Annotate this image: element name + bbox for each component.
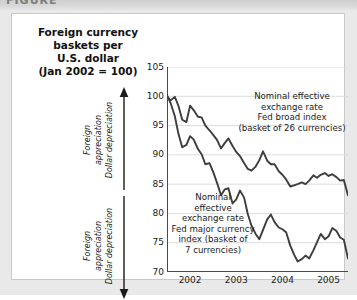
axis-note-appreciation-down: Foreign appreciation Dollar depreciation [82,192,134,300]
y-axis-tick-label: 105 [142,63,164,72]
axis-note-up-line-3: Dollar depreciation [104,86,115,194]
x-axis-tick-label: 2003 [225,275,248,285]
series-annotation-broad-line-1: Nominal effective [231,91,353,102]
chart-title-line-3: U.S. dollar [20,52,156,65]
axis-note-down-text: Foreign appreciation Dollar depreciation [82,192,116,300]
y-axis-tick-label: 95 [142,121,164,130]
y-axis-tick-label: 100 [142,92,164,101]
axis-note-up-line-2: appreciation [93,86,104,194]
series-annotation-major-index: Nominal effective exchange rate Fed majo… [152,192,274,255]
x-axis-tick-label: 2005 [317,275,340,285]
series-annotation-major-line-3: exchange rate [152,213,274,224]
series-annotation-major-line-6: 7 currencies) [152,245,274,256]
chart-title-line-1: Foreign currency [20,26,156,39]
chart-title-line-4: (Jan 2002 = 100) [20,65,156,78]
y-axis-tick-label: 70 [142,268,164,277]
x-axis-tick-labels: 2002200320042005 [167,275,348,289]
x-axis-tick-label: 2004 [271,275,294,285]
arrow-up-icon [118,86,130,194]
series-annotation-broad-line-2: exchange rate [231,102,353,113]
series-annotation-major-line-1: Nominal [152,192,274,203]
series-annotation-major-line-2: effective [152,203,274,214]
y-axis-tick-label: 85 [142,180,164,189]
arrow-down-icon [118,192,130,300]
chart-card: Foreign currency baskets per U.S. dollar… [11,13,345,280]
series-annotation-major-line-4: Fed major currency [152,224,274,235]
x-axis-tick-label: 2002 [179,275,202,285]
axis-note-down-line-1: Foreign [82,192,93,300]
axis-note-down-line-2: appreciation [93,192,104,300]
series-annotation-broad-index: Nominal effective exchange rate Fed broa… [231,91,353,133]
y-axis-tick-label: 90 [142,150,164,159]
axis-note-down-line-3: Dollar depreciation [104,192,115,300]
series-annotation-broad-line-4: (basket of 26 currencies) [231,123,353,134]
axis-note-appreciation-up: Foreign appreciation Dollar depreciation [82,86,134,194]
series-annotation-broad-line-3: Fed broad index [231,112,353,123]
series-annotation-major-line-5: index (basket of [152,234,274,245]
figure-caption-bar: FIGURE [0,0,357,10]
axis-note-up-line-1: Foreign [82,86,93,194]
axis-note-up-text: Foreign appreciation Dollar depreciation [82,86,116,194]
chart-title-line-2: baskets per [20,39,156,52]
chart-title: Foreign currency baskets per U.S. dollar… [20,26,156,78]
figure-caption-text: FIGURE [6,0,58,7]
